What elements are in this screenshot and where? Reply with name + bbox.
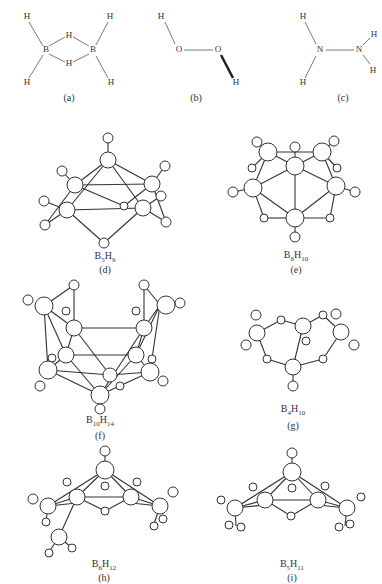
atom-h: H (108, 77, 115, 87)
formula-b5h9: B5H9 (95, 250, 116, 264)
atom-b: B (90, 44, 96, 54)
panel-label-b: (b) (190, 92, 202, 103)
atom-n: N (356, 44, 363, 54)
b4h10-structure (241, 309, 359, 391)
panel-label-h: (h) (98, 572, 110, 583)
panel-label-e: (e) (290, 264, 301, 275)
atom-h: H (300, 11, 307, 21)
atom-h: H (24, 11, 31, 21)
formula-b6h12: B6H12 (92, 558, 116, 572)
panel-label-c: (c) (337, 92, 348, 103)
panel-label-f: (f) (95, 430, 105, 441)
panel-label-d: (d) (99, 264, 111, 275)
atom-h: H (371, 29, 378, 39)
atom-h: H (158, 11, 165, 21)
formula-b5h11: B5H11 (280, 558, 304, 572)
atom-h: H (233, 77, 240, 87)
b6h12-structure (28, 446, 178, 557)
formula-b10h14: B10H14 (86, 414, 114, 428)
atom-h: H (300, 77, 307, 87)
atom-o: O (215, 44, 222, 54)
atom-h: H (66, 58, 73, 68)
b10h14-structure (23, 280, 185, 414)
b5h9-structure (39, 133, 171, 248)
atom-o: O (176, 44, 183, 54)
formula-b4h10: B4H10 (281, 403, 305, 417)
panel-label-i: (i) (287, 572, 296, 583)
atom-h: H (66, 30, 73, 40)
atom-n: N (317, 44, 324, 54)
atom-h: H (370, 65, 377, 75)
atom-b: B (43, 44, 49, 54)
panel-label-g: (g) (287, 420, 299, 431)
b5h11-structure (217, 448, 365, 531)
atom-h: H (107, 11, 114, 21)
molecular-structures-diagram (0, 0, 382, 584)
atom-h: H (24, 77, 31, 87)
formula-b6h10: B6H10 (284, 249, 308, 263)
b6h10-structure (228, 136, 360, 242)
panel-label-a: (a) (63, 92, 74, 103)
